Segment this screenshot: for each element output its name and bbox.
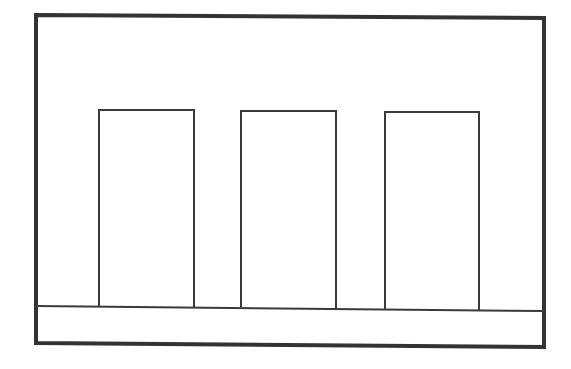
diagram-canvas: [0, 0, 571, 369]
background: [0, 0, 571, 369]
